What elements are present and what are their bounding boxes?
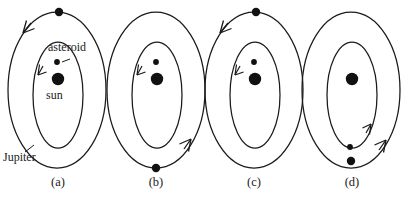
jupiter-body-a — [55, 8, 63, 16]
jupiter-body-d — [347, 157, 355, 165]
panel-d — [302, 12, 400, 168]
sun-body-d — [346, 73, 358, 85]
asteroid-body-b — [153, 59, 159, 65]
panel-label-b: (b) — [126, 175, 186, 190]
asteroid-body-d — [347, 144, 353, 150]
asteroid-orbit-c — [230, 42, 280, 148]
asteroid-orbit-b — [132, 42, 182, 148]
asteroid-body-a — [54, 59, 60, 65]
orbit-diagram-figure: asteroid sun Jupiter (a) (b) (c) (d) — [0, 0, 408, 219]
jupiter-body-c — [252, 8, 260, 16]
jupiter-label: Jupiter — [3, 150, 36, 165]
sun-body-a — [52, 73, 64, 85]
sun-body-b — [151, 73, 163, 85]
panel-c — [205, 8, 303, 168]
sun-label: sun — [46, 88, 63, 103]
sun-body-c — [249, 73, 261, 85]
asteroid-leader-line — [62, 59, 70, 62]
asteroid-label: asteroid — [48, 40, 86, 55]
asteroid-body-c — [251, 59, 257, 65]
panel-label-d: (d) — [322, 175, 382, 190]
panel-label-a: (a) — [28, 175, 88, 190]
panel-label-c: (c) — [224, 175, 284, 190]
panel-b — [107, 12, 205, 172]
jupiter-orbit-c — [205, 12, 303, 168]
jupiter-body-b — [152, 164, 160, 172]
